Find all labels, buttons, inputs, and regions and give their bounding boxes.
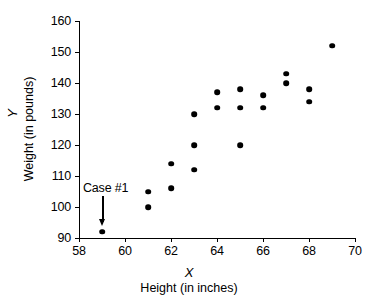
plot-data-area bbox=[79, 21, 355, 238]
data-point bbox=[283, 71, 289, 77]
data-point bbox=[283, 80, 289, 86]
data-point bbox=[260, 105, 266, 111]
data-point bbox=[99, 229, 105, 235]
data-point bbox=[191, 142, 197, 148]
x-tick-label: 66 bbox=[256, 244, 270, 258]
data-point bbox=[237, 142, 243, 148]
x-tick-mark bbox=[355, 238, 356, 242]
data-point bbox=[191, 167, 197, 173]
y-tick-label: 160 bbox=[0, 14, 71, 28]
data-point bbox=[214, 90, 220, 96]
data-point bbox=[260, 93, 266, 99]
x-tick-mark bbox=[263, 238, 264, 242]
data-point bbox=[329, 43, 335, 49]
y-tick-label: 100 bbox=[0, 200, 71, 214]
x-tick-mark bbox=[125, 238, 126, 242]
x-tick-label: 64 bbox=[210, 244, 224, 258]
x-tick-label: 68 bbox=[302, 244, 316, 258]
x-tick-label: 70 bbox=[348, 244, 362, 258]
data-point bbox=[168, 186, 174, 192]
data-point bbox=[145, 189, 151, 195]
data-point bbox=[145, 204, 151, 210]
x-tick-mark bbox=[309, 238, 310, 242]
x-tick-label: 62 bbox=[164, 244, 178, 258]
x-axis-variable-label: X bbox=[0, 265, 378, 280]
data-point bbox=[306, 99, 312, 105]
data-point bbox=[214, 105, 220, 111]
x-tick-label: 58 bbox=[72, 244, 86, 258]
data-point bbox=[168, 161, 174, 167]
x-axis-title: Height (in inches) bbox=[0, 281, 378, 295]
x-tick-mark bbox=[171, 238, 172, 242]
data-point bbox=[306, 86, 312, 92]
x-tick-mark bbox=[79, 238, 80, 242]
case-annotation-arrow-head bbox=[99, 219, 105, 226]
y-tick-label: 90 bbox=[0, 231, 71, 245]
data-point bbox=[237, 86, 243, 92]
data-point bbox=[191, 111, 197, 117]
case-annotation-label: Case #1 bbox=[83, 181, 128, 195]
y-axis-title: Weight (in pounds) bbox=[22, 69, 36, 189]
x-tick-label: 60 bbox=[118, 244, 132, 258]
y-tick-label: 150 bbox=[0, 45, 71, 59]
data-point bbox=[237, 105, 243, 111]
x-tick-mark bbox=[217, 238, 218, 242]
scatter-plot-figure: 90100110120130140150160 58606264666870 C… bbox=[0, 0, 378, 304]
y-axis-variable-label: Y bbox=[5, 109, 20, 118]
